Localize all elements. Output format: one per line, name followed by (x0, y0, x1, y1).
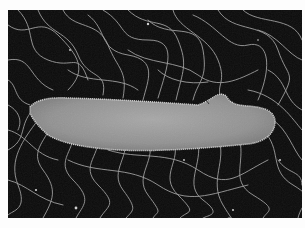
micrograph-image: Scanning electron micrograph of a rod-sh… (8, 10, 302, 218)
bacterium-illustration (8, 10, 302, 218)
